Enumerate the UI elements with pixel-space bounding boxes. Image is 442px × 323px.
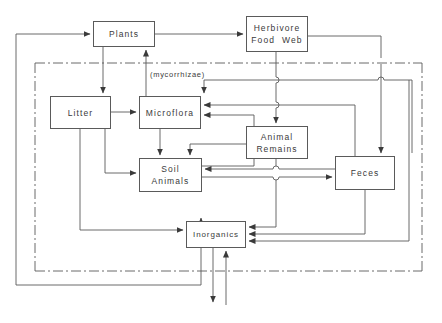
node-soil-animals[interactable]: Soil Animals	[139, 158, 202, 192]
node-animal-remains-label-line1: Animal	[261, 131, 294, 143]
node-herbivore-food-web-label-line2: Food Web	[251, 34, 302, 46]
node-plants-label-line1: Plants	[109, 28, 139, 40]
edge-herbivore-to-feces	[308, 36, 381, 153]
node-litter[interactable]: Litter	[50, 96, 111, 129]
node-feces[interactable]: Feces	[335, 156, 395, 190]
node-animal-remains-label-line2: Remains	[256, 143, 297, 155]
node-herbivore-food-web-label-line1: Herbivore	[254, 22, 301, 34]
soil-food-web-diagram: Plants Herbivore Food Web Litter Microfl…	[0, 0, 442, 323]
node-litter-label-line1: Litter	[68, 107, 94, 119]
edge-litter-to-soil-animals	[105, 129, 136, 173]
mycorrhizae-annotation: (mycorrhizae)	[150, 70, 205, 79]
wire-hop-soil-feces-177	[273, 177, 279, 180]
edge-animal-remains-to-soil-animals	[190, 144, 246, 155]
node-animal-remains[interactable]: Animal Remains	[246, 126, 308, 159]
node-microflora-label-line1: Microflora	[146, 107, 194, 119]
wire-hop-feces-soil-169	[273, 166, 279, 169]
node-soil-animals-label-line1: Soil	[161, 163, 180, 175]
node-plants[interactable]: Plants	[93, 21, 155, 47]
node-soil-animals-label-line2: Animals	[152, 175, 190, 187]
node-inorganics-label-line1: Inorganics	[193, 229, 239, 241]
node-inorganics[interactable]: Inorganics	[186, 221, 246, 248]
node-feces-label-line1: Feces	[351, 167, 380, 179]
node-microflora[interactable]: Microflora	[139, 96, 201, 129]
node-herbivore-food-web[interactable]: Herbivore Food Web	[246, 16, 308, 52]
